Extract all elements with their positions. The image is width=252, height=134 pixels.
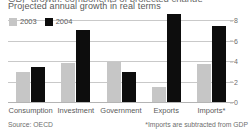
chart-subtitle: Projected annual growth in real terms [8,1,161,12]
chart-figure: GDP growth: components of projected chan… [0,0,252,134]
legend-item-2003: 2003 [9,18,37,26]
chart-footer: Source: OECD *Imports are subtracted fro… [8,121,248,129]
x-label-investment: Investment [53,106,98,115]
y-tick-label-6: 6 [234,37,238,44]
legend-label-2003: 2003 [20,18,37,26]
bar-group-exports [144,12,189,102]
footnote-label: *Imports are subtracted from GDP [145,121,248,129]
bar-2003-consumption [16,72,30,102]
bar-2003-investment [61,63,75,102]
source-label: Source: OECD [8,121,53,129]
x-label-exports: Exports [144,106,189,115]
y-tick-label-8: 8 [234,17,238,24]
legend-item-2004: 2004 [45,18,73,26]
y-tick-6: 6 [234,37,238,44]
bar-group-government [98,12,143,102]
y-tick-mark-8 [230,20,233,21]
bar-2004-exports [167,14,181,102]
y-tick-8: 8 [234,17,238,24]
gridline-0 [8,102,234,103]
legend-swatch-2003 [9,18,17,26]
y-tick-4: 4 [234,58,238,65]
y-tick-label-2: 2 [234,78,238,85]
legend-label-2004: 2004 [56,18,73,26]
bar-2004-government [122,72,136,102]
bar-2003-exports [152,87,166,102]
chart-legend: 2003 2004 [9,18,72,26]
x-label-imports: Imports* [189,106,234,115]
bar-2004-investment [76,30,90,102]
bar-2003-government [107,62,121,102]
legend-swatch-2004 [45,18,53,26]
x-axis-labels: ConsumptionInvestmentGovernmentExportsIm… [8,106,234,115]
y-tick-mark-4 [230,61,233,62]
x-label-consumption: Consumption [8,106,53,115]
bar-2004-imports [212,26,226,102]
y-tick-2: 2 [234,78,238,85]
y-tick-mark-0 [230,102,233,103]
bar-group-imports [189,12,234,102]
y-tick-mark-6 [230,41,233,42]
bar-2003-imports [197,64,211,102]
y-axis: 02468 [234,12,252,102]
y-tick-label-4: 4 [234,58,238,65]
bar-2004-consumption [31,67,45,102]
x-label-government: Government [98,106,143,115]
y-tick-mark-2 [230,82,233,83]
y-tick-label-0: 0 [234,99,238,106]
y-tick-0: 0 [234,99,238,106]
